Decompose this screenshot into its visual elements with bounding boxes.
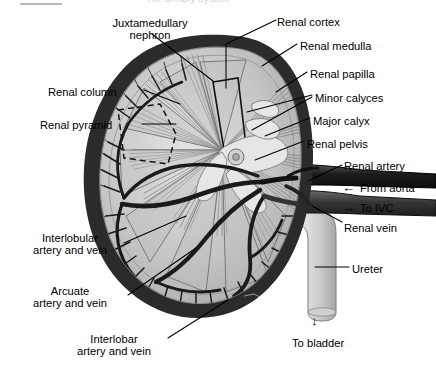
label-from-aorta: From aorta — [360, 182, 436, 194]
label-arcuate-vessels: Arcuate artery and vein — [18, 285, 122, 310]
label-renal-vein: Renal vein — [344, 222, 418, 234]
label-to-bladder: To bladder — [292, 337, 368, 349]
label-renal-medulla: Renal medulla — [300, 40, 398, 52]
label-to-ivc: To IVC — [360, 202, 412, 214]
label-interlobar-vessels: Interlobar artery and vein — [62, 333, 166, 358]
label-minor-calyces: Minor calyces — [315, 92, 411, 104]
label-renal-pyramid: Renal pyramid — [40, 119, 140, 131]
kidney-anatomy-figure: The Urinary System — [0, 0, 436, 368]
label-major-calyx: Major calyx — [313, 115, 397, 127]
label-juxtamedullary-nephron: Juxtamedullary nephron — [98, 17, 202, 42]
label-interlobular-vessels: Interlobular artery and vein — [18, 232, 122, 257]
label-renal-papilla: Renal papilla — [310, 68, 402, 80]
label-ureter: Ureter — [352, 263, 400, 275]
label-renal-artery: Renal artery — [344, 160, 430, 172]
to-bladder-arrow: ↓ — [311, 315, 318, 327]
label-renal-column: Renal column — [48, 86, 142, 98]
from-aorta-arrow: ← — [342, 182, 355, 194]
renal-papilla-tip — [233, 154, 240, 161]
label-renal-cortex: Renal cortex — [277, 16, 367, 28]
to-ivc-arrow: → — [342, 202, 355, 214]
label-renal-pelvis: Renal pelvis — [307, 138, 393, 150]
